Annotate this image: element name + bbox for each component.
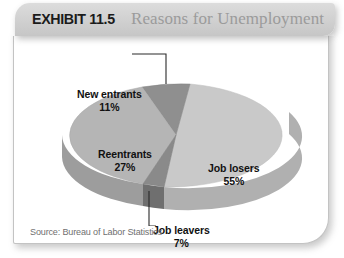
exhibit-number-label: EXHIBIT 11.5 xyxy=(32,10,115,28)
figure-header-bar: EXHIBIT 11.5Reasons for Unemployment xyxy=(15,3,335,36)
pie-label-job-leavers-pct: 7% xyxy=(153,237,210,250)
leader-line-new-entrants xyxy=(132,54,166,84)
pie-label-new-entrants-pct: 11% xyxy=(77,101,142,114)
header-text-group: EXHIBIT 11.5Reasons for Unemployment xyxy=(32,9,324,29)
pie-label-job-losers-name: Job losers xyxy=(208,162,260,174)
pie-label-job-losers: Job losers 55% xyxy=(208,162,260,187)
pie-chart-area: New entrants 11% Reentrants 27% Job lose… xyxy=(13,36,329,226)
pie-chart-svg xyxy=(13,36,329,226)
slice-side-job-leavers xyxy=(143,184,164,209)
exhibit-title: Reasons for Unemployment xyxy=(131,9,324,29)
pie-label-new-entrants-name: New entrants xyxy=(77,88,142,100)
pie-label-reentrants-pct: 27% xyxy=(98,161,152,174)
exhibit-figure-card: EXHIBIT 11.5Reasons for Unemployment xyxy=(0,0,344,258)
pie-label-new-entrants: New entrants 11% xyxy=(77,88,142,113)
pie-label-reentrants: Reentrants 27% xyxy=(98,148,152,173)
pie-label-job-losers-pct: 55% xyxy=(208,175,260,188)
source-note: Source: Bureau of Labor Statistics xyxy=(30,226,162,237)
pie-label-reentrants-name: Reentrants xyxy=(98,148,152,160)
